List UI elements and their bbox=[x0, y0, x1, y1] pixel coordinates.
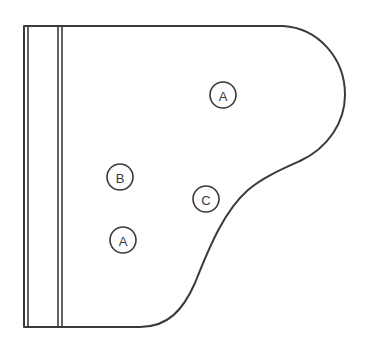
piano-outline-diagram: A B C A bbox=[0, 0, 366, 343]
marker-a-top: A bbox=[210, 82, 236, 108]
marker-b: B bbox=[107, 164, 133, 190]
piano-body-outline bbox=[24, 26, 345, 327]
marker-label: A bbox=[119, 234, 128, 249]
marker-label: C bbox=[201, 193, 210, 208]
marker-label: B bbox=[116, 171, 125, 186]
marker-a-bottom: A bbox=[110, 227, 136, 253]
marker-label: A bbox=[219, 89, 228, 104]
marker-c: C bbox=[193, 186, 219, 212]
